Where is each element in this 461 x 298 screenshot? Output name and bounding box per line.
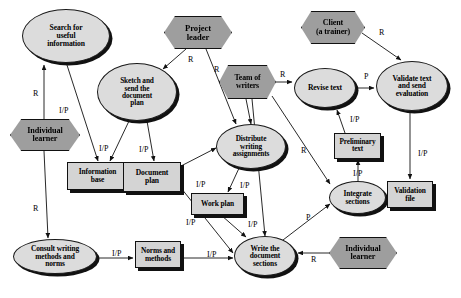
edge-label-integrate_sections-to-preliminary_text: I/P: [353, 170, 362, 178]
edge-label-norms_methods-to-write_sections: I/P: [207, 251, 216, 259]
edge-label-project_leader-to-sketch_plan: R: [188, 56, 193, 64]
node-label: Team of writers: [232, 74, 262, 90]
node-norms_methods[interactable]: Norms and methods: [135, 241, 181, 268]
node-label: Individual learner: [25, 127, 64, 144]
edge-distribute_work-to-work_plan: [228, 166, 240, 192]
edge-work_plan-to-write_sections: [221, 215, 246, 237]
edge-label-work_plan-to-write_sections: I/P: [248, 221, 257, 229]
node-label: Write the document sections: [248, 245, 282, 268]
node-team_writers[interactable]: Team of writers: [219, 65, 276, 99]
edge-label-distribute_work-to-work_plan: I/P: [240, 182, 249, 190]
edge-label-revise_text-to-validate_text: P: [364, 73, 368, 81]
node-label: Search for useful information: [45, 24, 87, 47]
edge-write_sections-to-integrate_sections: [283, 204, 330, 240]
node-information_base[interactable]: Information base: [67, 162, 128, 190]
node-label: Document plan: [134, 169, 171, 184]
node-label: Consult writing methods and norms: [29, 245, 81, 268]
edge-preliminary_text-to-revise_text: [337, 110, 345, 133]
edge-team_writers-to-distribute_work: [246, 99, 251, 124]
node-search_info[interactable]: Search for useful information: [22, 9, 110, 63]
edge-document_plan-to-distribute_work: [181, 148, 216, 166]
edge-sketch_plan-to-information_base: [110, 121, 129, 161]
node-validate_text[interactable]: Validate text and send evaluation: [376, 61, 448, 111]
edge-label-preliminary_text-to-revise_text: I/P: [350, 116, 359, 124]
node-client[interactable]: Client (a trainer): [301, 11, 365, 44]
node-work_plan[interactable]: Work plan: [191, 193, 244, 215]
node-label: Sketch and send the document plan: [118, 77, 156, 107]
node-sketch_plan[interactable]: Sketch and send the document plan: [97, 63, 177, 121]
node-label: Norms and methods: [139, 247, 177, 262]
node-write_sections[interactable]: Write the document sections: [234, 236, 296, 276]
node-label: Integrate sections: [341, 190, 373, 205]
edge-label-validate_text-to-validation_file: I/P: [418, 150, 427, 158]
node-label: Information base: [77, 168, 119, 183]
edge-label-sketch_plan-to-information_base: I/P: [99, 145, 108, 153]
node-label: Validate text and send evaluation: [390, 75, 433, 98]
edge-client-to-validate_text: [362, 33, 401, 60]
edge-label-sketch_plan-to-document_plan: I/P: [139, 146, 148, 154]
node-individual_learner_2[interactable]: Individual learner: [329, 237, 397, 269]
edge-label-client-to-validate_text: R: [379, 29, 384, 37]
node-document_plan[interactable]: Document plan: [123, 162, 181, 192]
edge-label-project_leader-to-distribute_work: R: [214, 66, 219, 74]
node-distribute_work[interactable]: Distribute writing assignments: [216, 124, 286, 169]
edge-label-search_info-to-information_base: I/P: [59, 107, 68, 115]
node-revise_text[interactable]: Revise text: [294, 68, 356, 108]
edge-project_leader-to-sketch_plan: [163, 49, 186, 69]
node-label: Client (a trainer): [314, 19, 352, 35]
node-label: Distribute writing assignments: [231, 135, 272, 157]
node-consult_methods[interactable]: Consult writing methods and norms: [13, 239, 97, 274]
node-validation_file[interactable]: Validation file: [387, 181, 433, 208]
node-individual_learner_1[interactable]: Individual learner: [10, 119, 80, 151]
edge-sketch_plan-to-document_plan: [147, 121, 154, 161]
edge-label-individual_learner_2-to-write_sections: R: [311, 256, 316, 264]
node-label: Individual learner: [343, 245, 382, 262]
edge-label-team_writers-to-revise_text: R: [280, 71, 285, 79]
edge-label-document_plan-to-distribute_work: I/P: [196, 181, 205, 189]
edge-label-individual_learner_1-to-consult_methods: R: [33, 205, 38, 213]
edge-label-write_sections-to-integrate_sections: P: [306, 214, 310, 222]
node-label: Validation file: [392, 187, 428, 202]
node-preliminary_text[interactable]: Preliminary text: [334, 133, 381, 159]
node-project_leader[interactable]: Project leader: [164, 16, 232, 49]
edge-label-document_plan-to-write_sections: I/P: [186, 219, 195, 227]
node-label: Project leader: [183, 24, 213, 42]
edge-label-consult_methods-to-norms_methods: I/P: [112, 250, 121, 258]
node-label: Revise text: [306, 84, 344, 92]
diagram-canvas: Search for useful informationIndividual …: [0, 0, 461, 298]
node-integrate_sections[interactable]: Integrate sections: [329, 181, 386, 214]
node-label: Preliminary text: [338, 139, 378, 154]
node-label: Work plan: [199, 200, 236, 208]
edge-label-individual_learner_1-to-search_info: R: [33, 90, 38, 98]
edge-individual_learner_1-to-consult_methods: [44, 151, 48, 238]
edge-label-team_writers-to-integrate_sections: R: [301, 147, 306, 155]
